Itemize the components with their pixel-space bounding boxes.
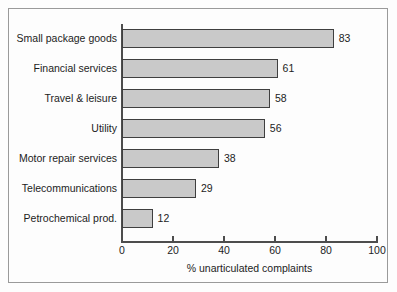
- x-axis-tick-label: 0: [102, 244, 142, 256]
- category-label: Financial services: [34, 59, 117, 78]
- bar-value-label: 58: [275, 89, 287, 108]
- category-label: Utility: [91, 119, 117, 138]
- bar: [122, 209, 153, 228]
- category-label: Telecommunications: [22, 179, 117, 198]
- bar-row: Telecommunications 29: [0, 179, 397, 198]
- bar: [122, 89, 270, 108]
- x-axis-tick: [325, 236, 327, 241]
- plot-area: Small package goods 83 Financial service…: [0, 0, 397, 292]
- category-label: Travel & leisure: [44, 89, 117, 108]
- category-label: Petrochemical prod.: [24, 209, 117, 228]
- bar-row: Motor repair services 38: [0, 149, 397, 168]
- bar-value-label: 61: [283, 59, 295, 78]
- bar-value-label: 12: [158, 209, 170, 228]
- x-axis-tick-label: 80: [306, 244, 346, 256]
- x-axis-tick: [274, 236, 276, 241]
- x-axis-label: % unarticulated complaints: [121, 262, 378, 274]
- bar-row: Utility 56: [0, 119, 397, 138]
- bar: [122, 29, 334, 48]
- bar: [122, 59, 278, 78]
- bar-value-label: 29: [201, 179, 213, 198]
- x-axis-line: [121, 241, 378, 243]
- bar-value-label: 38: [224, 149, 236, 168]
- bar: [122, 119, 265, 138]
- bar: [122, 149, 219, 168]
- x-axis-tick: [376, 236, 378, 241]
- x-axis-tick-label: 20: [153, 244, 193, 256]
- x-axis-tick-label: 60: [255, 244, 295, 256]
- x-axis-tick-label: 40: [204, 244, 244, 256]
- bar-row: Small package goods 83: [0, 29, 397, 48]
- category-label: Motor repair services: [19, 149, 117, 168]
- x-axis-tick-label: 100: [357, 244, 397, 256]
- chart-figure: Small package goods 83 Financial service…: [0, 0, 397, 292]
- bar: [122, 179, 196, 198]
- bar-row: Travel & leisure 58: [0, 89, 397, 108]
- bar-value-label: 56: [270, 119, 282, 138]
- bar-value-label: 83: [339, 29, 351, 48]
- bar-row: Petrochemical prod. 12: [0, 209, 397, 228]
- x-axis-tick: [223, 236, 225, 241]
- x-axis-tick: [121, 236, 123, 241]
- x-axis-tick: [172, 236, 174, 241]
- bar-row: Financial services 61: [0, 59, 397, 78]
- category-label: Small package goods: [17, 29, 117, 48]
